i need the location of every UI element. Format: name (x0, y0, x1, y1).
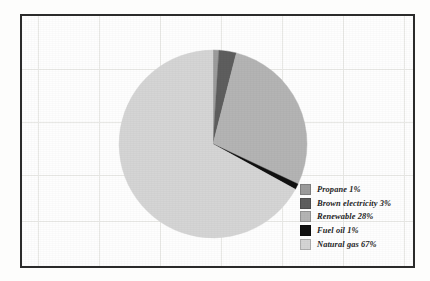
legend-item: Natural gas 67% (300, 237, 412, 251)
legend-item-label: Renewable 28% (317, 212, 373, 221)
legend-item-label: Propane 1% (317, 185, 361, 194)
legend-item: Fuel oil 1% (300, 224, 412, 238)
legend-swatch-icon (300, 239, 311, 250)
legend-item: Brown electricity 3% (300, 197, 412, 211)
legend-swatch-icon (300, 211, 311, 222)
legend-swatch-icon (300, 184, 311, 195)
legend-item-label: Brown electricity 3% (317, 199, 391, 208)
legend-item: Propane 1% (300, 183, 412, 197)
legend-item: Renewable 28% (300, 210, 412, 224)
scanned-page: Propane 1%Brown electricity 3%Renewable … (0, 0, 430, 281)
legend-item-label: Natural gas 67% (317, 240, 377, 249)
legend-swatch-icon (300, 225, 311, 236)
legend-swatch-icon (300, 198, 311, 209)
figure-frame: Propane 1%Brown electricity 3%Renewable … (20, 14, 415, 268)
legend-item-label: Fuel oil 1% (317, 226, 359, 235)
pie-slice-group (119, 50, 307, 238)
chart-legend: Propane 1%Brown electricity 3%Renewable … (300, 183, 412, 251)
